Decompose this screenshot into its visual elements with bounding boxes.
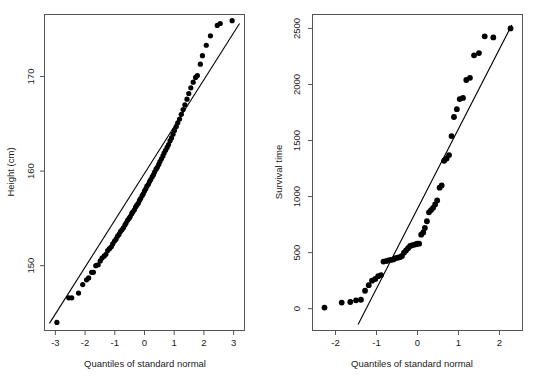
x-tick-label: -1 — [111, 337, 119, 348]
survival-qq-chart: Survival time Quantiles of standard norm… — [267, 0, 534, 381]
data-point — [204, 43, 209, 48]
height-x-axis-title: Quantiles of standard normal — [84, 358, 206, 369]
panel-height-qq: Height (cm) Quantiles of standard normal… — [0, 0, 267, 381]
survival-y-ticks: 05001000150020002500 — [291, 18, 313, 311]
height-qq-chart: Height (cm) Quantiles of standard normal… — [0, 0, 267, 381]
data-point — [424, 218, 430, 224]
data-point — [353, 297, 359, 303]
qq-plot-figure: Height (cm) Quantiles of standard normal… — [0, 0, 534, 381]
x-tick-label: -1 — [372, 337, 380, 348]
data-point — [186, 91, 191, 96]
y-tick-label: 1500 — [291, 130, 302, 151]
data-point — [191, 80, 196, 85]
data-point — [195, 73, 200, 78]
data-point — [181, 107, 186, 112]
data-point — [347, 299, 353, 305]
x-tick-label: 2 — [201, 337, 206, 348]
data-point — [86, 275, 91, 280]
height-y-axis-title: Height (cm) — [5, 147, 16, 196]
x-tick-label: -2 — [81, 337, 89, 348]
height-x-ticks: -3-2-10123 — [51, 330, 236, 348]
y-tick-label: 0 — [291, 306, 302, 311]
data-point — [490, 35, 496, 41]
y-axis-title-text: Survival time — [273, 145, 284, 199]
data-point — [378, 272, 384, 278]
y-tick-label: 2500 — [291, 18, 302, 39]
x-tick-label: 1 — [172, 337, 177, 348]
x-tick-label: 0 — [415, 337, 420, 348]
data-point — [80, 282, 85, 287]
data-point — [200, 53, 205, 58]
data-point — [179, 112, 184, 117]
y-tick-label: 1000 — [291, 186, 302, 207]
y-tick-label: 170 — [25, 69, 36, 85]
data-point — [54, 320, 59, 325]
data-point — [451, 114, 457, 120]
data-point — [358, 297, 364, 303]
height-y-ticks: 150160170 — [25, 69, 45, 274]
x-tick-label: -3 — [51, 337, 59, 348]
data-point — [198, 62, 203, 67]
data-point — [362, 288, 368, 294]
data-point — [177, 116, 182, 121]
survival-y-axis-title: Survival time — [273, 145, 284, 199]
data-point — [339, 300, 345, 306]
panel-survival-qq: Survival time Quantiles of standard norm… — [267, 0, 534, 381]
data-point — [454, 106, 460, 112]
x-tick-label: 0 — [142, 337, 147, 348]
data-point — [218, 21, 223, 26]
y-tick-label: 150 — [25, 258, 36, 274]
y-axis-title-text: Height (cm) — [5, 147, 16, 196]
y-tick-label: 500 — [291, 245, 302, 261]
data-point — [476, 50, 482, 56]
x-tick-label: -2 — [331, 337, 339, 348]
survival-reference-line — [358, 25, 512, 324]
survival-x-ticks: -2-1012 — [331, 330, 502, 348]
data-point — [467, 75, 473, 81]
data-point — [422, 225, 428, 231]
survival-data-points — [322, 26, 514, 311]
height-reference-line — [49, 24, 239, 324]
data-point — [76, 291, 81, 296]
x-tick-label: 3 — [231, 337, 236, 348]
data-point — [434, 198, 440, 204]
plot-frame — [313, 15, 523, 331]
data-point — [439, 182, 445, 188]
data-point — [230, 18, 235, 23]
data-point — [508, 26, 514, 32]
data-point — [182, 102, 187, 107]
height-data-points — [54, 18, 234, 325]
data-point — [91, 270, 96, 275]
data-point — [188, 85, 193, 90]
data-point — [208, 33, 213, 38]
x-axis-title-text: Quantiles of standard normal — [351, 358, 473, 369]
y-tick-label: 2000 — [291, 74, 302, 95]
data-point — [449, 133, 455, 139]
data-point — [322, 305, 328, 311]
x-axis-title-text: Quantiles of standard normal — [84, 358, 206, 369]
survival-x-axis-title: Quantiles of standard normal — [351, 358, 473, 369]
x-tick-label: 1 — [456, 337, 461, 348]
y-tick-label: 160 — [25, 163, 36, 179]
data-point — [416, 241, 422, 247]
data-point — [460, 95, 466, 101]
data-point — [446, 152, 452, 158]
data-point — [482, 33, 488, 39]
data-point — [69, 295, 74, 300]
data-point — [184, 97, 189, 102]
x-tick-label: 2 — [497, 337, 502, 348]
